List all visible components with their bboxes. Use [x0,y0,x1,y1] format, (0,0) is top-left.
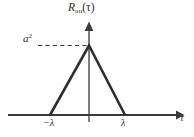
triangle-waveform [50,46,125,116]
x-tick-label-negative-lambda: −λ [43,118,54,128]
y-axis-label-argument: (τ) [82,1,94,13]
x-tick-label-positive-lambda: λ [121,118,125,128]
peak-value-label: a2 [23,33,32,44]
autocorrelation-figure: Ruu(τ) a2 −λ λ τ [0,0,194,137]
x-axis-label: τ [180,113,184,124]
y-axis-arrowhead [85,22,94,32]
y-axis-label-function: R [68,1,75,13]
peak-value-exponent: 2 [29,32,33,40]
y-axis-label: Ruu(τ) [68,2,95,15]
plot-canvas [0,0,194,137]
